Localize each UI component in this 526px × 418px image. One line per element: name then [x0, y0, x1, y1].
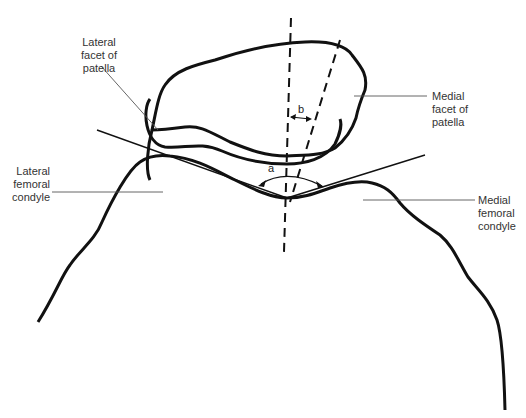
angle-a-arrow-left: [258, 180, 266, 187]
sulcus-bisector-dashed-line: [284, 18, 291, 252]
angle-b-arrow-right: [306, 116, 312, 122]
femur-outline: [38, 156, 505, 410]
leader-lateral-facet: [101, 66, 158, 130]
angle-b-arrow-left: [290, 114, 296, 120]
label-medial-facet: Medial facet of patella: [432, 90, 468, 129]
lateral-tangent-line: [97, 130, 287, 198]
angle-a-arc: [261, 176, 322, 186]
angle-a-arrow-right: [316, 181, 324, 188]
angle-b-label: b: [298, 103, 304, 115]
label-medial-condyle: Medial femoral condyle: [478, 194, 516, 233]
angle-a-label: a: [268, 162, 274, 174]
label-lateral-condyle: Lateral femoral condyle: [0, 165, 50, 204]
label-lateral-facet: Lateral facet of patella: [66, 36, 132, 75]
